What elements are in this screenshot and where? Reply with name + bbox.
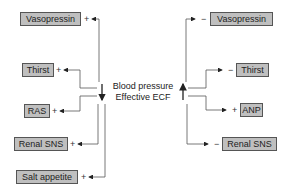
right-anp-box: ANP [240, 103, 263, 117]
center-label-blood-pressure: Blood pressure [112, 81, 174, 92]
right-renal-sns-sign: − [214, 138, 219, 150]
right-renal-sns-box: Renal SNS [222, 137, 277, 151]
left-thirst-sign: + [56, 64, 61, 76]
left-ras-sign: + [52, 105, 57, 117]
left-renal-sns-box: Renal SNS [14, 137, 68, 151]
left-vasopressin-box: Vasopressin [20, 12, 81, 26]
left-salt-appetite-box: Salt appetite [16, 170, 78, 184]
right-anp-sign: + [232, 104, 237, 116]
left-renal-sns-sign: + [70, 138, 75, 150]
left-ras-box: RAS [24, 104, 50, 118]
left-vasopressin-sign: + [84, 13, 89, 25]
right-vasopressin-sign: − [201, 13, 206, 25]
right-thirst-box: Thirst [236, 63, 269, 77]
center-label-effective-ecf: Effective ECF [112, 92, 174, 103]
right-vasopressin-box: Vasopressin [210, 12, 273, 26]
right-thirst-sign: − [228, 64, 233, 76]
left-thirst-box: Thirst [22, 63, 54, 77]
left-salt-appetite-sign: + [81, 171, 86, 183]
